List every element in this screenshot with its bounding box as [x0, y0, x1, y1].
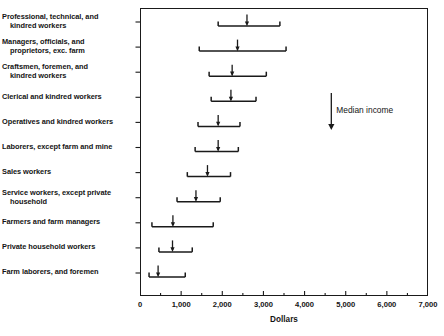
x-axis-tick-label: 4,000 [295, 300, 314, 309]
category-label-line: Service workers, except private [2, 188, 132, 197]
category-label-line: Managers, officials, and [2, 37, 132, 46]
x-axis-title: Dollars [140, 315, 428, 324]
category-label-line: household [2, 197, 132, 206]
chart-figure: Professional, technical, andkindred work… [0, 0, 444, 336]
x-axis-tick-label: 3,000 [254, 300, 273, 309]
category-label: Craftsmen, foremen, andkindred workers [2, 62, 132, 80]
category-label: Farm laborers, and foremen [2, 267, 132, 276]
x-axis-tick-label: 2,000 [213, 300, 232, 309]
category-label-line: kindred workers [2, 71, 132, 80]
x-axis-tick-label: 0 [138, 300, 142, 309]
category-label-line: Farmers and farm managers [2, 217, 132, 226]
x-axis-tick-label: 6,000 [377, 300, 396, 309]
category-label-line: Private household workers [2, 242, 132, 251]
category-label-line: Farm laborers, and foremen [2, 267, 132, 276]
category-label: Sales workers [2, 167, 132, 176]
category-label: Private household workers [2, 242, 132, 251]
category-label: Professional, technical, andkindred work… [2, 12, 132, 30]
category-label: Clerical and kindred workers [2, 92, 132, 101]
category-label-column: Professional, technical, andkindred work… [0, 0, 136, 296]
x-axis-tick-label: 1,000 [172, 300, 191, 309]
category-label-line: Craftsmen, foremen, and [2, 62, 132, 71]
category-label-line: Laborers, except farm and mine [2, 142, 132, 151]
category-label: Operatives and kindred workers [2, 117, 132, 126]
plot-area [140, 8, 428, 296]
category-label-line: proprietors, exc. farm [2, 46, 132, 55]
category-label-line: Clerical and kindred workers [2, 92, 132, 101]
category-label: Laborers, except farm and mine [2, 142, 132, 151]
category-label: Managers, officials, andproprietors, exc… [2, 37, 132, 55]
category-label-line: Professional, technical, and [2, 12, 132, 21]
category-label-line: Sales workers [2, 167, 132, 176]
category-label: Service workers, except privatehousehold [2, 188, 132, 206]
category-label: Farmers and farm managers [2, 217, 132, 226]
category-label-line: kindred workers [2, 21, 132, 30]
category-label-line: Operatives and kindred workers [2, 117, 132, 126]
median-income-annotation-label: Median income [336, 105, 393, 115]
x-axis-tick-label: 5,000 [336, 300, 355, 309]
x-axis-tick-label: 7,000 [418, 300, 437, 309]
